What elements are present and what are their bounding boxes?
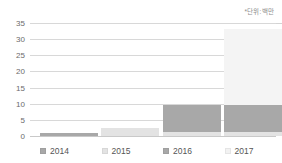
bar-segment-2014-mid[interactable] — [40, 133, 98, 136]
legend-swatch-2014 — [40, 148, 46, 154]
y-tick-label-15: 15 — [16, 83, 25, 92]
bar-group-2016[interactable] — [163, 105, 221, 136]
legend-label-2017: 2017 — [235, 146, 254, 156]
bar-segment-2017-top[interactable] — [224, 29, 282, 105]
legend-item-2017[interactable]: 2017 — [225, 144, 254, 158]
legend-swatch-2016 — [163, 148, 169, 154]
y-tick-label-5: 5 — [21, 115, 25, 124]
bar-group-2014[interactable] — [40, 133, 98, 136]
gridline-0 — [30, 136, 276, 137]
bar-group-2015[interactable] — [101, 128, 159, 136]
bar-group-2017[interactable] — [224, 29, 282, 136]
bar-segment-2017-base[interactable] — [224, 132, 282, 136]
bar-chart: *단위:백만 05101520253035 2014201520162017 — [0, 0, 282, 163]
legend-swatch-2017 — [225, 148, 231, 154]
legend-label-2014: 2014 — [50, 146, 69, 156]
legend-swatch-2015 — [102, 148, 108, 154]
bar-segment-2017-mid[interactable] — [224, 105, 282, 132]
legend-item-2015[interactable]: 2015 — [102, 144, 131, 158]
legend-item-2014[interactable]: 2014 — [40, 144, 69, 158]
right-tick-35 — [276, 23, 282, 24]
legend-label-2015: 2015 — [112, 146, 131, 156]
plot-area: 05101520253035 — [30, 18, 276, 142]
chart-legend: 2014201520162017 — [30, 144, 276, 158]
y-tick-label-35: 35 — [16, 19, 25, 28]
unit-annotation: *단위:백만 — [244, 6, 274, 16]
bar-segment-2016-mid[interactable] — [163, 105, 221, 132]
bar-segment-2015-base[interactable] — [101, 128, 159, 136]
legend-item-2016[interactable]: 2016 — [163, 144, 192, 158]
y-tick-label-30: 30 — [16, 35, 25, 44]
y-tick-label-10: 10 — [16, 99, 25, 108]
axis-area: 05101520253035 — [30, 23, 276, 136]
y-tick-label-20: 20 — [16, 67, 25, 76]
bar-series-container — [30, 23, 276, 136]
y-tick-label-25: 25 — [16, 51, 25, 60]
bar-segment-2016-base[interactable] — [163, 132, 221, 136]
y-tick-label-0: 0 — [21, 132, 25, 141]
legend-label-2016: 2016 — [173, 146, 192, 156]
